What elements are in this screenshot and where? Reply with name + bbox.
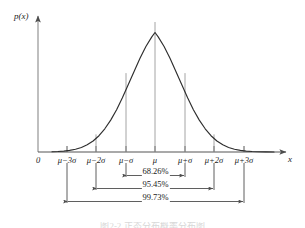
interval-label-99: 99.73% [141,193,169,202]
interval-label-68: 68.26% [141,167,169,176]
tick-label-minus-3sigma: μ−3σ [58,156,76,165]
sigma-droplines [67,22,244,152]
tick-label-plus-3sigma: μ+3σ [235,156,253,165]
tick-label-minus-1sigma: μ−σ [119,156,133,165]
origin-label: 0 [36,156,40,165]
interval-label-95: 95.45% [141,180,169,189]
x-axis-ticks [67,146,244,152]
normal-distribution-figure: p(x) x 0 μ−3σ μ−2σ μ−σ μ μ+σ μ+2σ μ+3σ 6… [0,0,305,228]
y-axis-label: p(x) [14,12,29,21]
x-axis-label: x [288,155,292,164]
tick-label-minus-2sigma: μ−2σ [87,156,105,165]
figure-caption: 图2-2 正态分布概率分布图 [0,222,305,228]
tick-label-mu: μ [153,156,157,165]
gaussian-curve [52,33,274,153]
tick-label-plus-1sigma: μ+σ [178,156,192,165]
tick-label-plus-2sigma: μ+2σ [205,156,223,165]
